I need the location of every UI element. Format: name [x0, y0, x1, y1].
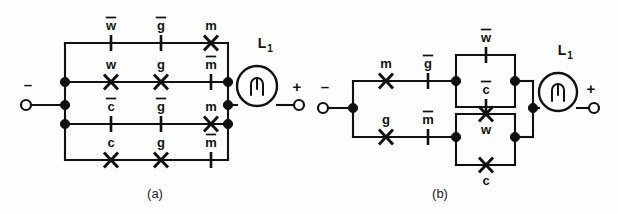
panel-b-bridge-upper-in-node	[451, 76, 460, 85]
panel-a-row-top-contact-w-bar-label: w	[105, 18, 117, 33]
panel-b-negative-sign: –	[321, 78, 329, 95]
panel-b-left-junction	[348, 103, 357, 112]
panel-a-negative-terminal[interactable]	[21, 100, 31, 110]
panel-b-branch-lower-contact-g-label: g	[382, 112, 390, 127]
panel-a-row-top-contact-m-label: m	[205, 18, 217, 33]
panel-a-left-junction-2	[60, 100, 69, 109]
panel-b-bridge-upper-contact-c-bar-label: c	[482, 82, 489, 97]
panel-a-row-three-contact-g-bar-label: g	[157, 99, 165, 114]
panel-b-positive-terminal[interactable]	[589, 103, 599, 113]
panel-b-branch-upper-contact-m-label: m	[380, 56, 392, 71]
panel-a: wgmwgmcgmcgmL1–+	[21, 18, 304, 169]
panel-a-left-junction-3	[60, 119, 69, 128]
panel-a-right-junction-3	[223, 119, 232, 128]
panel-b: mggmwcwcL1–+	[318, 30, 599, 189]
panel-b-lamp-label: L	[558, 42, 567, 58]
panel-b-branch-lower-contact-m-bar-label: m	[422, 112, 434, 127]
panel-a-lamp-label-subscript: 1	[267, 43, 273, 54]
panel-a-row-bottom-contact-m-bar-label: m	[205, 135, 217, 150]
circuit-canvas: wgmwgmcgmcgmL1–+ mggmwcwcL1–+ (a)(b)	[0, 0, 618, 214]
panel-a-row-two-contact-g-label: g	[157, 57, 165, 72]
caption-panel-b: (b)	[432, 186, 448, 201]
panel-b-lamp-label-subscript: 1	[567, 50, 573, 61]
panel-a-row-bottom-contact-g-label: g	[157, 135, 165, 150]
panel-b-bridge-lower-in-node	[451, 132, 460, 141]
panel-b-bridge-upper-contact-w-bar-label: w	[480, 30, 492, 45]
panel-a-negative-sign: –	[24, 76, 32, 93]
panel-b-bridge-lower-contact-c-label: c	[482, 173, 489, 188]
panel-b-negative-terminal[interactable]	[318, 103, 328, 113]
panel-b-positive-sign: +	[587, 80, 596, 97]
panel-b-branch-upper-contact-g-bar-label: g	[424, 56, 432, 71]
caption-panel-a: (a)	[147, 186, 163, 201]
panel-a-left-junction-1	[60, 77, 69, 86]
panel-a-positive-terminal[interactable]	[294, 100, 304, 110]
figure-relay-ladder-diagrams: wgmwgmcgmcgmL1–+ mggmwcwcL1–+ (a)(b)	[0, 0, 618, 214]
panel-a-row-three-contact-c-bar-label: c	[107, 99, 114, 114]
panel-a-row-bottom-contact-c-label: c	[107, 135, 114, 150]
panel-a-row-top-contact-g-bar-label: g	[157, 18, 165, 33]
panel-a-row-two-contact-w-label: w	[105, 57, 117, 72]
panel-a-lamp-label: L	[258, 35, 267, 51]
panel-b-bridge-lower-contact-w-label: w	[480, 122, 492, 137]
panel-a-right-junction-1	[223, 77, 232, 86]
panel-a-row-three-contact-m-label: m	[205, 99, 217, 114]
captions: (a)(b)	[147, 186, 448, 201]
panel-a-positive-sign: +	[293, 78, 302, 95]
panel-a-row-two-contact-m-bar-label: m	[205, 57, 217, 72]
